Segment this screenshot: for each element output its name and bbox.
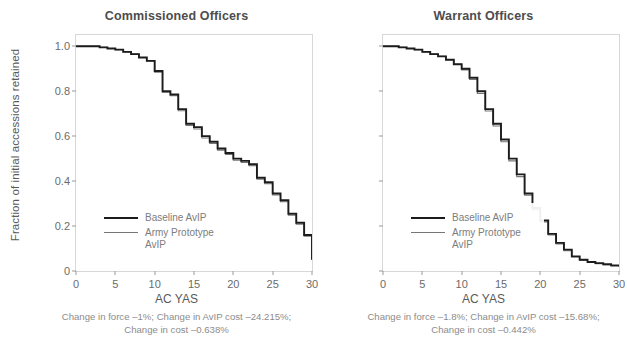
x-tick-mark xyxy=(383,271,384,275)
legend-line-baseline-icon xyxy=(104,217,138,219)
plot-area: Baseline AvIP Army Prototype AvIP 00.20.… xyxy=(75,34,313,272)
y-axis-title: Fraction of initial accessions retained xyxy=(0,0,30,290)
x-tick-label: 15 xyxy=(495,278,507,290)
panel-caption: Change in force –1%; Change in AvIP cost… xyxy=(36,310,317,336)
x-tick-mark xyxy=(312,271,313,275)
legend: Baseline AvIP Army Prototype AvIP xyxy=(403,203,544,260)
legend-line-prototype-icon xyxy=(104,232,138,233)
x-tick-mark xyxy=(461,271,462,275)
legend-label: Baseline AvIP xyxy=(452,212,514,224)
caption-line-2: Change in cost –0.638% xyxy=(36,323,317,336)
x-tick-mark xyxy=(422,271,423,275)
legend-item-prototype: Army Prototype AvIP xyxy=(411,227,535,251)
x-tick-mark xyxy=(115,271,116,275)
x-tick-label: 25 xyxy=(267,278,279,290)
legend-line-baseline-icon xyxy=(411,217,445,219)
y-tick-label: 0.2 xyxy=(55,220,70,232)
plot-area: Baseline AvIP Army Prototype AvIP 051015… xyxy=(382,34,620,272)
x-tick-mark xyxy=(233,271,234,275)
x-tick-mark xyxy=(579,271,580,275)
legend-item-baseline: Baseline AvIP xyxy=(104,212,228,224)
x-tick-label: 30 xyxy=(306,278,318,290)
panel-commissioned-officers: Commissioned Officers Baseline AvIP Army… xyxy=(33,0,320,352)
caption-line-1: Change in force –1%; Change in AvIP cost… xyxy=(36,310,317,323)
y-tick-mark xyxy=(379,91,383,92)
x-tick-label: 20 xyxy=(534,278,546,290)
panel-title: Commissioned Officers xyxy=(33,9,320,23)
x-tick-label: 20 xyxy=(227,278,239,290)
x-tick-label: 0 xyxy=(73,278,79,290)
x-tick-mark xyxy=(194,271,195,275)
legend-label: Baseline AvIP xyxy=(145,212,207,224)
x-tick-label: 0 xyxy=(380,278,386,290)
y-tick-mark xyxy=(72,91,76,92)
legend-item-baseline: Baseline AvIP xyxy=(411,212,535,224)
caption-line-2: Change in cost –0.442% xyxy=(343,323,624,336)
x-axis-title: AC YAS xyxy=(33,292,320,306)
x-tick-label: 30 xyxy=(613,278,625,290)
y-tick-mark xyxy=(379,46,383,47)
x-tick-mark xyxy=(619,271,620,275)
y-tick-label: 0.4 xyxy=(55,175,70,187)
panel-caption: Change in force –1.8%; Change in AvIP co… xyxy=(343,310,624,336)
y-tick-label: 0 xyxy=(64,265,70,277)
x-tick-label: 10 xyxy=(149,278,161,290)
x-tick-mark xyxy=(154,271,155,275)
legend-label: Army Prototype AvIP xyxy=(145,227,228,251)
x-tick-label: 10 xyxy=(456,278,468,290)
y-tick-mark xyxy=(72,226,76,227)
y-tick-label: 1.0 xyxy=(55,40,70,52)
panel-warrant-officers: Warrant Officers Baseline AvIP Army Prot… xyxy=(340,0,627,352)
panel-title: Warrant Officers xyxy=(340,9,627,23)
legend-line-prototype-icon xyxy=(411,232,445,233)
x-tick-mark xyxy=(501,271,502,275)
y-tick-mark xyxy=(72,136,76,137)
x-tick-mark xyxy=(272,271,273,275)
y-tick-label: 0.6 xyxy=(55,130,70,142)
y-tick-mark xyxy=(379,226,383,227)
x-tick-mark xyxy=(76,271,77,275)
legend-label: Army Prototype AvIP xyxy=(452,227,535,251)
x-axis-title: AC YAS xyxy=(340,292,627,306)
y-tick-mark xyxy=(379,181,383,182)
figure-retention-curves: Fraction of initial accessions retained … xyxy=(0,0,627,352)
caption-line-1: Change in force –1.8%; Change in AvIP co… xyxy=(343,310,624,323)
x-tick-label: 25 xyxy=(574,278,586,290)
x-tick-mark xyxy=(540,271,541,275)
x-tick-label: 15 xyxy=(188,278,200,290)
legend: Baseline AvIP Army Prototype AvIP xyxy=(96,203,237,260)
legend-item-prototype: Army Prototype AvIP xyxy=(104,227,228,251)
y-tick-mark xyxy=(72,46,76,47)
y-tick-mark xyxy=(72,181,76,182)
y-tick-label: 0.8 xyxy=(55,85,70,97)
y-tick-mark xyxy=(379,136,383,137)
x-tick-label: 5 xyxy=(419,278,425,290)
x-tick-label: 5 xyxy=(112,278,118,290)
